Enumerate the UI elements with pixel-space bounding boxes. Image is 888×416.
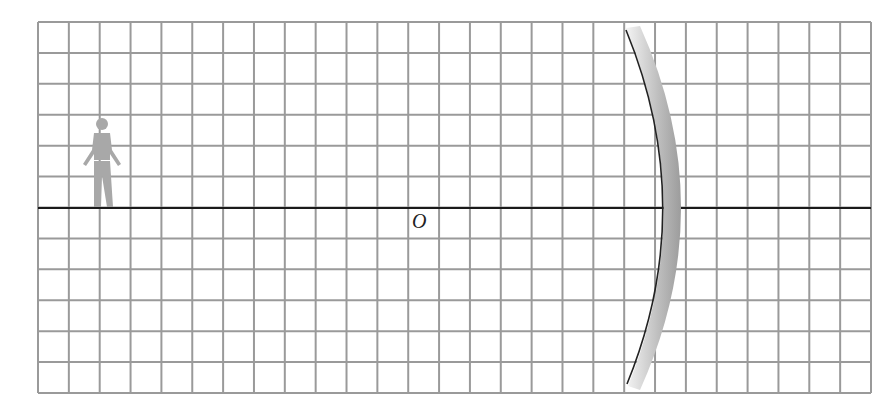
person-figure-icon [83,118,121,207]
origin-label: O [412,210,426,233]
diagram-canvas [0,0,888,416]
